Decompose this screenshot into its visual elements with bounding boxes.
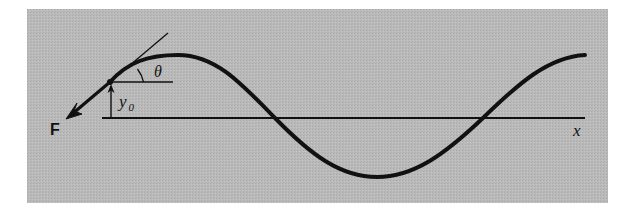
x-axis-label: x <box>572 121 581 140</box>
displacement-subscript: 0 <box>129 101 135 113</box>
force-label: F <box>50 121 60 138</box>
angle-label: θ <box>154 63 162 80</box>
displacement-label: y <box>117 92 127 111</box>
string-point-dot <box>107 79 113 85</box>
diagram-background-panel <box>27 9 608 203</box>
string-wave-diagram: θ y 0 F x <box>0 0 637 217</box>
